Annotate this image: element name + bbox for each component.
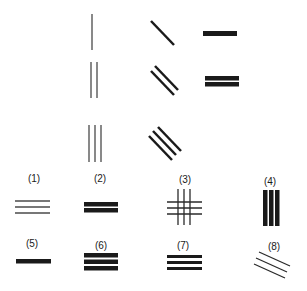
option-1-label: (1): [28, 173, 40, 184]
option-7-figure[interactable]: [167, 255, 202, 270]
figure-double-vertical: [91, 62, 97, 98]
figure-single-thick-horizontal: [203, 31, 237, 36]
figure-single-diagonal: [151, 21, 174, 45]
option-4-figure[interactable]: [263, 190, 280, 226]
option-5-figure[interactable]: [16, 259, 51, 264]
option-6-label: (6): [95, 240, 107, 251]
option-4-label: (4): [264, 176, 276, 187]
option-2-label: (2): [94, 173, 106, 184]
option-1-figure[interactable]: [15, 201, 50, 213]
figure-triple-vertical: [89, 125, 101, 162]
option-5-label: (5): [26, 238, 38, 249]
puzzle-diagram: [0, 0, 307, 291]
option-8-label: (8): [268, 241, 280, 252]
option-7-label: (7): [177, 240, 189, 251]
option-3-figure[interactable]: [167, 189, 202, 225]
option-6-figure[interactable]: [84, 253, 118, 271]
figure-triple-diagonal: [149, 127, 181, 160]
option-2-figure[interactable]: [84, 202, 118, 213]
figure-double-thick-horizontal: [205, 76, 239, 87]
option-3-label: (3): [179, 174, 191, 185]
option-8-figure[interactable]: [254, 252, 290, 278]
figure-double-diagonal: [151, 66, 178, 95]
